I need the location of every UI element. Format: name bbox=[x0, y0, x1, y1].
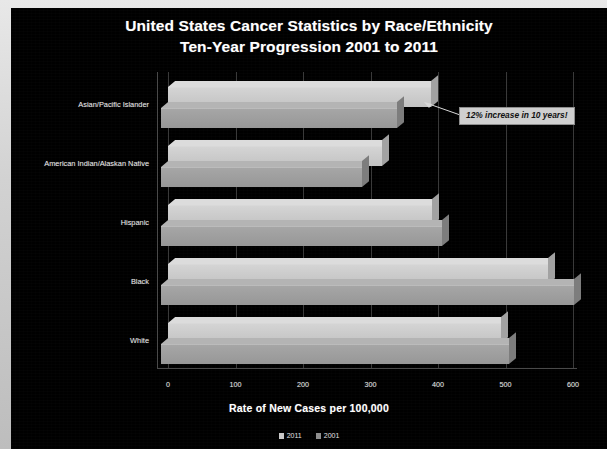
x-tick-label: 400 bbox=[432, 380, 444, 389]
bar-side-facet bbox=[382, 134, 389, 166]
legend-item: 2011 bbox=[279, 432, 302, 439]
category-label: White bbox=[130, 336, 149, 345]
bar-face-facet bbox=[161, 344, 509, 364]
x-axis-tick-labels: 0100200300400500600 bbox=[157, 380, 607, 394]
category-row: American Indian/Alaskan Native bbox=[157, 137, 607, 197]
category-row: Hispanic bbox=[157, 196, 607, 256]
chart-title: United States Cancer Statistics by Race/… bbox=[11, 16, 607, 37]
x-tick-label: 0 bbox=[166, 380, 170, 389]
chart-canvas: United States Cancer Statistics by Race/… bbox=[11, 8, 607, 449]
bar-2001 bbox=[161, 167, 362, 187]
annotation-callout: 12% increase in 10 years! bbox=[459, 107, 575, 125]
legend-swatch-icon bbox=[279, 433, 284, 439]
x-tick-label: 200 bbox=[297, 380, 309, 389]
bar-2001 bbox=[161, 285, 574, 305]
category-label: Asian/Pacific Islander bbox=[78, 100, 149, 109]
slide-page: United States Cancer Statistics by Race/… bbox=[0, 0, 607, 449]
x-tick-label: 500 bbox=[500, 380, 512, 389]
bar-face-facet bbox=[161, 285, 574, 305]
chart-title-block: United States Cancer Statistics by Race/… bbox=[11, 16, 607, 58]
bar-2001 bbox=[161, 226, 442, 246]
category-row: Black bbox=[157, 255, 607, 315]
bar-2001 bbox=[161, 108, 397, 128]
bar-side-facet bbox=[509, 332, 516, 364]
bar-side-facet bbox=[574, 273, 581, 305]
category-label: Black bbox=[131, 277, 149, 286]
x-tick-label: 600 bbox=[567, 380, 579, 389]
legend-item: 2001 bbox=[316, 432, 340, 439]
category-label: American Indian/Alaskan Native bbox=[44, 159, 149, 168]
legend-label: 2011 bbox=[287, 432, 302, 439]
bar-face-facet bbox=[161, 226, 442, 246]
x-axis-title: Rate of New Cases per 100,000 bbox=[11, 402, 607, 414]
bar-side-facet bbox=[442, 214, 449, 246]
bar-2001 bbox=[161, 344, 509, 364]
category-label: Hispanic bbox=[121, 218, 149, 227]
bar-face-facet bbox=[161, 108, 397, 128]
legend-swatch-icon bbox=[316, 433, 321, 439]
x-tick-label: 100 bbox=[230, 380, 242, 389]
category-row: White bbox=[157, 314, 607, 374]
bar-face-facet bbox=[161, 167, 362, 187]
bar-side-facet bbox=[431, 75, 438, 107]
chart-subtitle: Ten-Year Progression 2001 to 2011 bbox=[11, 37, 607, 58]
bar-side-facet bbox=[397, 96, 404, 128]
chart-legend: 20112001 bbox=[11, 432, 607, 439]
bar-side-facet bbox=[362, 155, 369, 187]
x-tick-label: 300 bbox=[365, 380, 377, 389]
legend-label: 2001 bbox=[324, 432, 340, 439]
